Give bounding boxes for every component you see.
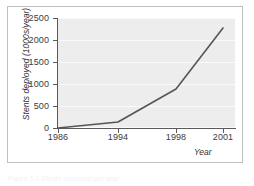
x-tick-label-1994: 1994: [98, 133, 138, 142]
y-tick-label-0: 0: [9, 124, 49, 133]
x-tick-label-2001: 2001: [203, 133, 243, 142]
series-polyline: [58, 28, 223, 128]
x-tick-label-1998: 1998: [156, 133, 196, 142]
figure-root: 2500 2000 1500 1000 500 0 1986 1994 1998…: [0, 0, 254, 186]
caption-remnant: Figure 1.1 Stents deployed per year: [8, 175, 246, 182]
x-axis-title: Year: [194, 147, 212, 157]
x-tick-label-1986: 1986: [38, 133, 78, 142]
y-axis-title: Stents deployed (1000s/year): [21, 4, 31, 124]
figure-frame: 2500 2000 1500 1000 500 0 1986 1994 1998…: [7, 6, 243, 163]
data-series-line: [57, 18, 235, 129]
line-chart: 2500 2000 1500 1000 500 0 1986 1994 1998…: [8, 7, 244, 164]
